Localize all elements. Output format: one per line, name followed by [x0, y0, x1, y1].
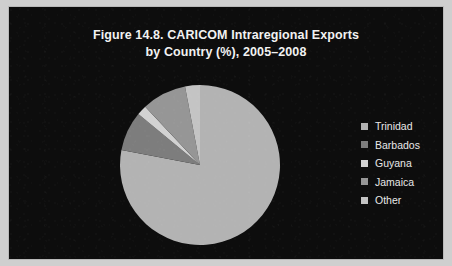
legend-item-label: Other: [375, 194, 401, 206]
figure-title-line-2: by Country (%), 2005–2008: [9, 44, 443, 61]
pie-chart-svg: [114, 79, 286, 251]
legend-item-trinidad: Trinidad: [361, 117, 441, 136]
legend-item-label: Barbados: [375, 139, 420, 151]
legend-swatch-icon: [361, 141, 368, 148]
legend-item-other: Other: [361, 191, 441, 210]
figure-panel: Figure 14.8. CARICOM Intraregional Expor…: [8, 6, 444, 260]
pie-slice-group: [120, 85, 280, 245]
legend-item-label: Guyana: [375, 157, 412, 169]
figure-title-line-1: Figure 14.8. CARICOM Intraregional Expor…: [9, 27, 443, 44]
legend-item-label: Jamaica: [375, 176, 414, 188]
pie-chart: [114, 79, 286, 251]
legend-item-guyana: Guyana: [361, 154, 441, 173]
chart-legend: TrinidadBarbadosGuyanaJamaicaOther: [361, 117, 441, 210]
legend-item-barbados: Barbados: [361, 136, 441, 155]
legend-swatch-icon: [361, 197, 368, 204]
figure-title: Figure 14.8. CARICOM Intraregional Expor…: [9, 27, 443, 61]
legend-item-label: Trinidad: [375, 120, 413, 132]
legend-swatch-icon: [361, 160, 368, 167]
legend-item-jamaica: Jamaica: [361, 173, 441, 192]
legend-swatch-icon: [361, 123, 368, 130]
legend-swatch-icon: [361, 178, 368, 185]
